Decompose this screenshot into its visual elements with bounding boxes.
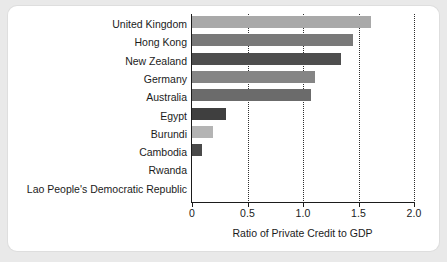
bar-row: Cambodia <box>8 143 439 161</box>
category-label: Lao People's Democratic Republic <box>27 183 187 195</box>
bar-row: Burundi <box>8 125 439 143</box>
bar <box>192 16 371 28</box>
x-tick-label-0: 0 <box>172 207 212 219</box>
category-label: Germany <box>144 73 187 85</box>
bar <box>192 34 353 46</box>
bar-chart-plot-area: United KingdomHong KongNew ZealandGerman… <box>8 6 439 251</box>
figure-background: United KingdomHong KongNew ZealandGerman… <box>0 0 447 262</box>
bar-row: Hong Kong <box>8 33 439 51</box>
category-label: Hong Kong <box>134 36 187 48</box>
bar-row: Rwanda <box>8 161 439 179</box>
x-axis-line <box>191 202 414 203</box>
category-label: New Zealand <box>125 55 187 67</box>
bar-row: Egypt <box>8 107 439 125</box>
bar <box>192 89 311 101</box>
bar <box>192 144 202 156</box>
bar <box>192 53 341 65</box>
x-tick-label-1.5: 1.5 <box>339 207 379 219</box>
x-tick-label-0.5: 0.5 <box>228 207 268 219</box>
category-label: Rwanda <box>148 164 187 176</box>
bar <box>192 71 315 83</box>
bar-row: Australia <box>8 88 439 106</box>
x-tick-label-1.0: 1.0 <box>283 207 323 219</box>
category-label: Cambodia <box>139 146 187 158</box>
bar-row: Germany <box>8 70 439 88</box>
category-label: Egypt <box>160 110 187 122</box>
y-axis-line <box>191 14 192 203</box>
bar <box>192 108 226 120</box>
category-label: Australia <box>146 91 187 103</box>
x-axis-title: Ratio of Private Credit to GDP <box>191 227 414 239</box>
bar-row: United Kingdom <box>8 15 439 33</box>
category-label: Burundi <box>151 128 187 140</box>
figure-card: United KingdomHong KongNew ZealandGerman… <box>8 6 439 251</box>
bar-row: Lao People's Democratic Republic <box>8 180 439 198</box>
bar-row: New Zealand <box>8 52 439 70</box>
bar <box>192 126 213 138</box>
x-tick-label-2.0: 2.0 <box>394 207 434 219</box>
category-label: United Kingdom <box>112 18 187 30</box>
